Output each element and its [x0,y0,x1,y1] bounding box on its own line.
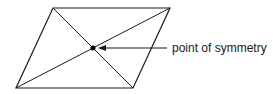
arrowhead-icon [98,45,106,51]
point-of-symmetry-label: point of symmetry [172,41,267,55]
center-point [91,46,96,51]
parallelogram-diagram: point of symmetry [0,0,273,94]
